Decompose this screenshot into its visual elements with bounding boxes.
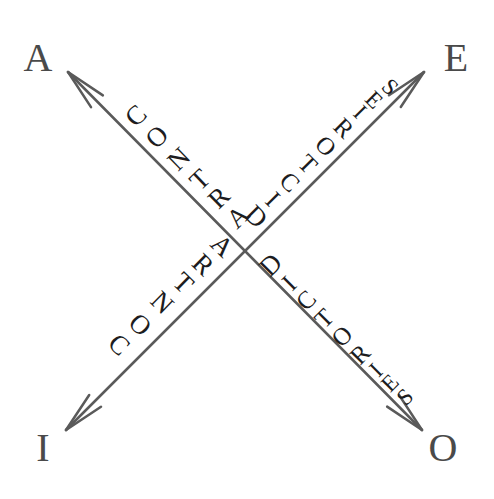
diagram-canvas: AEIOCONTRADICTORIESCONTRADICTORIES xyxy=(0,0,494,499)
contradictories-arrow-a-o-head-start-barb-1 xyxy=(68,72,91,107)
contradictories-arrow-e-i-head-end-barb-1 xyxy=(66,407,101,430)
contradictories-arrow-e-i-head-start-barb-1 xyxy=(389,72,424,95)
contradictories-arrow-e-i-head-end-barb-0 xyxy=(66,395,89,430)
contradictories-arrow-a-o-head-start-barb-0 xyxy=(68,72,103,95)
contradictories-arrow-e-i-head-start-barb-0 xyxy=(401,72,424,107)
contradictories-arrow-a-o-head-end-barb-0 xyxy=(387,407,422,430)
contradictories-arrow-a-o-head-end-barb-1 xyxy=(399,395,422,430)
arrow-layer xyxy=(0,0,494,499)
